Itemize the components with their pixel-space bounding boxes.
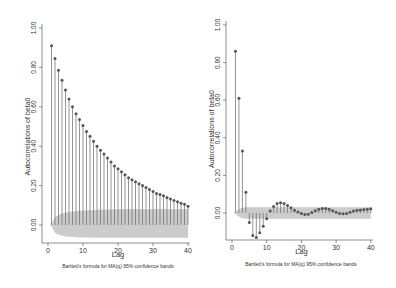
y-tick-label: 0.20 [30, 179, 37, 192]
data-point [331, 209, 334, 212]
data-point [366, 208, 369, 211]
data-point [352, 210, 355, 213]
data-point [54, 57, 57, 60]
x-tick-label: 0 [46, 247, 50, 254]
data-point [255, 236, 258, 239]
data-point [61, 79, 64, 82]
y-tick-label: 1.00 [214, 18, 221, 31]
data-point [120, 170, 123, 173]
data-point [183, 203, 186, 206]
x-tick-label: 30 [332, 244, 340, 251]
data-point [279, 201, 282, 204]
data-point [68, 97, 71, 100]
data-point [113, 164, 116, 167]
data-point [152, 190, 155, 193]
x-tick-label: 10 [79, 247, 87, 254]
data-point [303, 213, 306, 216]
data-point [145, 186, 148, 189]
data-point [89, 135, 92, 138]
y-tick-label: 1.00 [30, 21, 37, 34]
data-point [296, 211, 299, 214]
y-axis-label: Autocorrelations of beta0 [24, 97, 31, 175]
data-point [57, 69, 60, 72]
data-point [272, 205, 275, 208]
x-tick-label: 0 [230, 244, 234, 251]
data-point [328, 208, 331, 211]
data-point [348, 211, 351, 214]
data-point [310, 211, 313, 214]
data-point [138, 182, 141, 185]
correlogram-figure: 0.000.200.400.600.801.00010203040LagAuto… [0, 0, 396, 288]
data-point [248, 221, 251, 224]
data-point [335, 211, 338, 214]
data-point [244, 191, 247, 194]
data-point [82, 124, 85, 127]
data-point [187, 205, 190, 208]
data-point [321, 207, 324, 210]
data-point [180, 202, 183, 205]
x-tick-label: 40 [184, 247, 192, 254]
data-point [269, 210, 272, 213]
data-point [96, 145, 99, 148]
data-point [265, 217, 268, 220]
data-point [286, 204, 289, 207]
data-point [314, 209, 317, 212]
data-point [317, 208, 320, 211]
data-point [307, 213, 310, 216]
y-tick-label: 0.40 [214, 131, 221, 144]
chart-caption: Bartlett's formula for MA(q) 95% confide… [62, 263, 174, 269]
data-point [241, 149, 244, 152]
data-point [110, 160, 113, 163]
data-point [75, 112, 78, 115]
data-point [300, 212, 303, 215]
y-tick-label: 0.80 [214, 56, 221, 69]
y-axis-label: Autocorrelations of beta0 [208, 90, 215, 168]
x-tick-label: 30 [149, 247, 157, 254]
y-tick-label: 0.00 [214, 206, 221, 219]
data-point [134, 180, 137, 183]
data-point [258, 231, 261, 234]
x-axis-label: Lag [112, 250, 125, 259]
data-point [71, 105, 74, 108]
data-point [369, 207, 372, 210]
data-point [92, 140, 95, 143]
data-point [234, 50, 237, 53]
data-point [262, 225, 265, 228]
data-point [176, 200, 179, 203]
data-point [117, 167, 120, 170]
data-point [293, 209, 296, 212]
data-point [162, 194, 165, 197]
y-tick-label: 0.80 [30, 61, 37, 74]
left-correlogram: 0.000.200.400.600.801.00010203040LagAuto… [24, 21, 192, 269]
data-point [345, 212, 348, 215]
data-point [359, 208, 362, 211]
data-point [338, 212, 341, 215]
right-correlogram: 0.000.200.400.600.801.00010203040LagAuto… [208, 18, 375, 267]
data-point [276, 202, 279, 205]
data-point [78, 118, 81, 121]
data-point [50, 44, 53, 47]
chart-caption: Bartlett's formula for MA(q) 95% confide… [245, 261, 357, 267]
data-point [159, 193, 162, 196]
x-tick-label: 10 [263, 244, 271, 251]
data-point [289, 206, 292, 209]
data-point [85, 130, 88, 133]
y-tick-label: 0.60 [214, 93, 221, 106]
data-point [155, 192, 158, 195]
data-point [237, 97, 240, 100]
data-point [324, 207, 327, 210]
data-point [131, 178, 134, 181]
x-axis-label: Lag [295, 247, 308, 256]
data-point [173, 199, 176, 202]
data-point [166, 196, 169, 199]
data-point [103, 153, 106, 156]
data-point [251, 234, 254, 237]
x-tick-label: 40 [367, 244, 375, 251]
y-tick-label: 0.60 [30, 100, 37, 113]
data-point [362, 208, 365, 211]
data-point [127, 176, 130, 179]
y-tick-label: 0.00 [30, 218, 37, 231]
y-tick-label: 0.40 [30, 139, 37, 152]
data-point [148, 188, 151, 191]
data-point [169, 197, 172, 200]
